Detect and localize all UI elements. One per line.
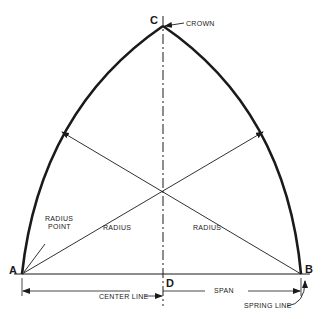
center-line-label: CENTER LINE bbox=[99, 293, 149, 300]
crown-leader bbox=[165, 23, 184, 26]
point-label-a: A bbox=[9, 264, 17, 276]
radius-line-left bbox=[22, 132, 263, 274]
point-label-b: B bbox=[305, 263, 313, 275]
point-label-d: D bbox=[166, 277, 174, 289]
radius-label-right: RADIUS bbox=[193, 224, 221, 231]
span-label: SPAN bbox=[214, 287, 234, 294]
spring-line-label: SPRING LINE bbox=[244, 302, 292, 309]
radius-label-left: RADIUS bbox=[103, 224, 131, 231]
radius-line-right bbox=[62, 132, 301, 274]
radius-point-label-2: POINT bbox=[48, 223, 71, 230]
radius-point-label-1: RADIUS bbox=[45, 215, 73, 222]
crown-label: CROWN bbox=[186, 20, 215, 27]
point-label-c: C bbox=[150, 14, 158, 26]
radius-point-leader bbox=[24, 244, 45, 272]
arch-diagram: C A B D CROWN RADIUS POINT RADIUS RADIUS… bbox=[0, 0, 326, 319]
